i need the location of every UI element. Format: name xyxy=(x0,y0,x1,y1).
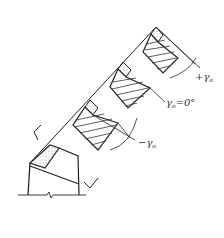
tool-body xyxy=(18,145,86,198)
positive-rake-label: +γo xyxy=(195,71,213,83)
zero-rake-label: γo=0° xyxy=(166,97,195,109)
rake-face-line xyxy=(150,88,165,102)
tool-section-body xyxy=(143,34,178,73)
rake-angle-diagram: +γo γo=0° −γo xyxy=(0,0,224,238)
negative-rake-section: −γo xyxy=(73,100,156,150)
positive-rake-section: +γo xyxy=(143,27,213,83)
section-marker-top xyxy=(34,125,41,140)
section-marker-bottom xyxy=(84,178,98,188)
carbide-insert xyxy=(30,145,59,168)
negative-rake-label: −γo xyxy=(138,137,156,149)
zero-rake-section: γo=0° xyxy=(110,62,195,109)
